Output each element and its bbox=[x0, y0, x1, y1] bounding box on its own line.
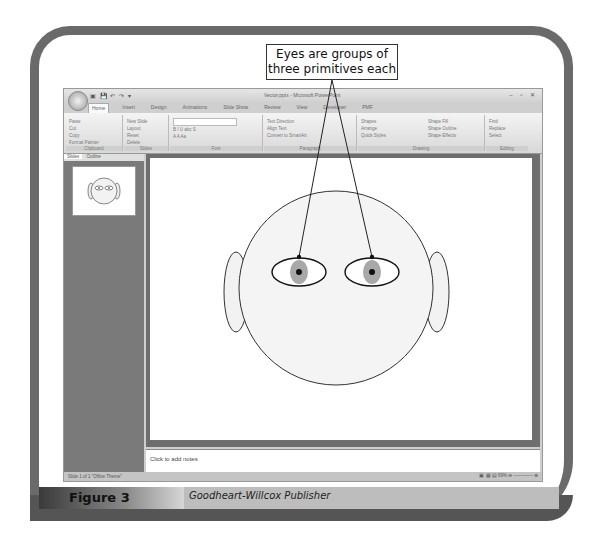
group-label: Editing bbox=[486, 146, 528, 151]
figure-label: Figure 3 bbox=[39, 487, 184, 509]
tab-developer[interactable]: Developer bbox=[320, 103, 349, 113]
shapes-gallery[interactable]: Shapes bbox=[361, 118, 386, 125]
group-label: Clipboard bbox=[66, 146, 122, 151]
group-label: Slides bbox=[124, 146, 168, 151]
office-button[interactable] bbox=[68, 91, 88, 111]
font-size-buttons[interactable]: A A Aa bbox=[173, 133, 237, 140]
window-title: Vector.pptx - Microsoft PowerPoint bbox=[264, 92, 340, 98]
slides-panel: Slides Outline bbox=[64, 154, 144, 472]
panel-tabs: Slides Outline bbox=[64, 154, 144, 161]
shape-fill-button[interactable]: Shape Fill bbox=[428, 118, 457, 125]
tab-home[interactable]: Home bbox=[88, 103, 109, 113]
tab-slides[interactable]: Slides bbox=[64, 154, 82, 159]
convert-smartart-button[interactable]: Convert to SmartArt bbox=[267, 132, 307, 139]
status-bar: Slide 1 of 1 "Office Theme" ▣ ▦ ▤ 69% ⊖ … bbox=[64, 472, 542, 481]
powerpoint-window: ▣ 💾 ↶ ↷ ▾ Vector.pptx - Microsoft PowerP… bbox=[63, 88, 543, 482]
new-slide-button[interactable]: New Slide bbox=[127, 118, 147, 125]
font-format-buttons[interactable]: B I U abc S bbox=[173, 126, 237, 133]
view-zoom-controls[interactable]: ▣ ▦ ▤ 69% ⊖ ────── ⊕ bbox=[479, 473, 538, 478]
arrange-button[interactable]: Arrange bbox=[361, 125, 386, 132]
slide-counter: Slide 1 of 1 "Office Theme" bbox=[68, 474, 122, 479]
callout-line-2: three primitives each bbox=[267, 62, 397, 77]
delete-button[interactable]: Delete bbox=[127, 139, 147, 146]
quick-styles-button[interactable]: Quick Styles bbox=[361, 132, 386, 139]
tab-slide-show[interactable]: Slide Show bbox=[220, 103, 251, 113]
find-button[interactable]: Find bbox=[489, 118, 506, 125]
slide-canvas[interactable] bbox=[150, 158, 532, 440]
select-button[interactable]: Select bbox=[489, 132, 506, 139]
slide-editing-area bbox=[146, 154, 540, 447]
notes-pane[interactable]: Click to add notes bbox=[146, 449, 540, 472]
tab-view[interactable]: View bbox=[294, 103, 311, 113]
quick-access-toolbar[interactable]: ▣ 💾 ↶ ↷ ▾ bbox=[90, 92, 132, 99]
reset-button[interactable]: Reset bbox=[127, 132, 147, 139]
window-controls[interactable]: – ▫ ✕ bbox=[509, 91, 538, 98]
shape-outline-button[interactable]: Shape Outline bbox=[428, 125, 457, 132]
group-clipboard: Paste Cut Copy Format Painter Clipboard bbox=[66, 115, 123, 151]
copy-button[interactable]: Copy bbox=[69, 132, 99, 139]
tab-insert[interactable]: Insert bbox=[119, 103, 138, 113]
tab-outline[interactable]: Outline bbox=[84, 154, 104, 159]
font-name-box[interactable] bbox=[173, 118, 237, 126]
notes-placeholder: Click to add notes bbox=[150, 456, 198, 462]
title-bar: ▣ 💾 ↶ ↷ ▾ Vector.pptx - Microsoft PowerP… bbox=[64, 89, 542, 103]
cut-button[interactable]: Cut bbox=[69, 125, 99, 132]
thumbnail-face-icon bbox=[73, 167, 135, 215]
align-text-button[interactable]: Align Text bbox=[267, 125, 307, 132]
group-font: B I U abc S A A Aa Font bbox=[170, 115, 263, 151]
shape-effects-button[interactable]: Shape Effects bbox=[428, 132, 457, 139]
tab-pmf[interactable]: PMF bbox=[359, 103, 376, 113]
replace-button[interactable]: Replace bbox=[489, 125, 506, 132]
publisher-credit: Goodheart-Willcox Publisher bbox=[189, 490, 330, 501]
ribbon-tabs: Home Insert Design Animations Slide Show… bbox=[88, 103, 376, 113]
group-slides: New Slide Layout Reset Delete Slides bbox=[124, 115, 169, 151]
tab-design[interactable]: Design bbox=[148, 103, 170, 113]
tab-animations[interactable]: Animations bbox=[179, 103, 210, 113]
group-paragraph: Text Direction Align Text Convert to Sma… bbox=[264, 115, 357, 151]
paste-button[interactable]: Paste bbox=[69, 118, 99, 125]
slide-thumbnail[interactable] bbox=[72, 166, 136, 216]
group-label: Drawing bbox=[358, 146, 484, 151]
group-drawing: Shapes Arrange Quick Styles Shape Fill S… bbox=[358, 115, 485, 151]
group-editing: Find Replace Select Editing bbox=[486, 115, 528, 151]
tab-review[interactable]: Review bbox=[261, 103, 283, 113]
callout-box: Eyes are groups of three primitives each bbox=[266, 44, 398, 80]
callout-line-1: Eyes are groups of bbox=[267, 47, 397, 62]
ribbon: Paste Cut Copy Format Painter Clipboard … bbox=[64, 113, 542, 154]
layout-button[interactable]: Layout bbox=[127, 125, 147, 132]
text-direction-button[interactable]: Text Direction bbox=[267, 118, 307, 125]
format-painter-button[interactable]: Format Painter bbox=[69, 139, 99, 146]
group-label: Font bbox=[170, 146, 262, 151]
group-label: Paragraph bbox=[264, 146, 356, 151]
